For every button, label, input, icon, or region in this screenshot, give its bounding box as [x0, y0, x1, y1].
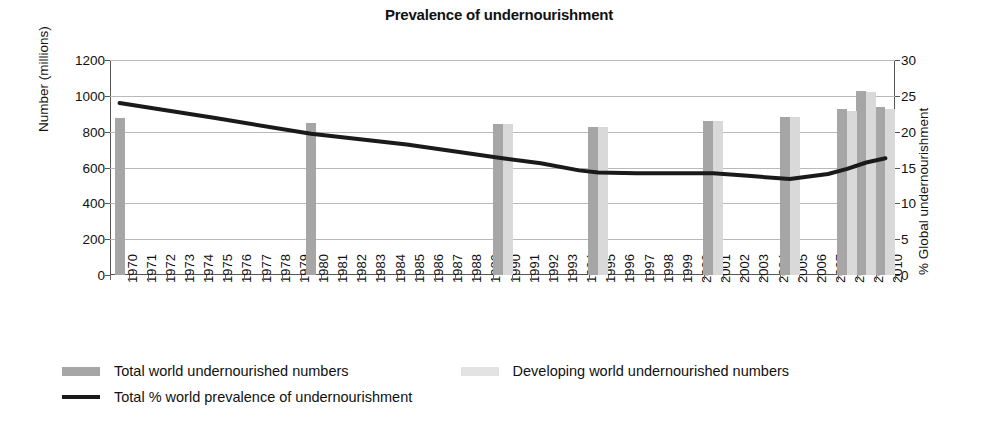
x-axis-tick-mark: [857, 275, 858, 280]
y-axis-right-tick-label: 30: [901, 53, 916, 68]
x-axis-tick-mark: [359, 275, 360, 280]
x-axis-tick-mark: [570, 275, 571, 280]
line-series-layer: [110, 60, 895, 275]
x-axis-tick-mark: [187, 275, 188, 280]
x-axis-tick-mark: [531, 275, 532, 280]
y-axis-left-tick-label: 600: [82, 160, 105, 175]
y-axis-left-title: Number (millions): [36, 0, 51, 132]
x-axis-tick-mark: [723, 275, 724, 280]
x-axis-tick-mark: [206, 275, 207, 280]
y-axis-right-tick-mark: [895, 60, 900, 61]
x-axis-tick-mark: [742, 275, 743, 280]
x-axis-tick-mark: [110, 275, 111, 280]
legend-swatch-total-icon: [62, 367, 100, 376]
y-axis-right-tick-mark: [895, 96, 900, 97]
y-axis-right-tick-label: 15: [901, 160, 916, 175]
x-axis-tick-mark: [167, 275, 168, 280]
y-axis-right-tick-mark: [895, 203, 900, 204]
legend-swatch-line-icon: [62, 395, 100, 399]
x-axis-tick-mark: [301, 275, 302, 280]
chart-title: Prevalence of undernourishment: [0, 6, 998, 23]
x-axis-tick-mark: [838, 275, 839, 280]
legend-label-total-world: Total world undernourished numbers: [114, 363, 349, 379]
x-axis-tick-mark: [244, 275, 245, 280]
line-series-path: [120, 103, 886, 179]
legend-item-developing-world[interactable]: Developing world undernourished numbers: [461, 363, 789, 379]
x-axis-tick-mark: [799, 275, 800, 280]
x-axis-tick-mark: [550, 275, 551, 280]
x-axis-tick-mark: [646, 275, 647, 280]
x-axis-tick-mark: [340, 275, 341, 280]
x-axis-tick-mark: [818, 275, 819, 280]
legend-item-total-world[interactable]: Total world undernourished numbers: [62, 363, 349, 379]
y-axis-right-tick-label: 5: [901, 232, 909, 247]
x-axis-tick-mark: [627, 275, 628, 280]
x-axis-tick-mark: [225, 275, 226, 280]
x-axis-tick-mark: [589, 275, 590, 280]
y-axis-right-tick-label: 20: [901, 124, 916, 139]
chart-legend: Total world undernourished numbers Devel…: [62, 358, 962, 410]
x-axis-tick-mark: [148, 275, 149, 280]
legend-label-developing-world: Developing world undernourished numbers: [513, 363, 789, 379]
y-axis-right-tick-mark: [895, 168, 900, 169]
x-axis-tick-mark: [780, 275, 781, 280]
x-axis-tick-mark: [321, 275, 322, 280]
x-axis-tick-mark: [129, 275, 130, 280]
y-axis-right-tick-mark: [895, 239, 900, 240]
y-axis-left-tick-label: 1200: [75, 53, 105, 68]
x-axis-tick-mark: [455, 275, 456, 280]
x-axis-tick-mark: [704, 275, 705, 280]
legend-label-percent-line: Total % world prevalence of undernourish…: [114, 389, 412, 405]
x-axis-tick-mark: [493, 275, 494, 280]
legend-row-bottom: Total % world prevalence of undernourish…: [62, 384, 962, 410]
x-axis-tick-mark: [474, 275, 475, 280]
legend-item-percent-line[interactable]: Total % world prevalence of undernourish…: [62, 389, 412, 405]
y-axis-right-tick-mark: [895, 132, 900, 133]
x-axis-tick-mark: [895, 275, 896, 280]
x-axis-tick-mark: [665, 275, 666, 280]
y-axis-right-title: % Global undernourishment: [916, 45, 931, 275]
x-axis-tick-mark: [282, 275, 283, 280]
y-axis-left-tick-label: 400: [82, 196, 105, 211]
x-axis-tick-mark: [416, 275, 417, 280]
y-axis-left-tick-label: 0: [97, 268, 105, 283]
y-axis-right-tick-label: 10: [901, 196, 916, 211]
x-axis-tick-mark: [684, 275, 685, 280]
x-axis-tick-mark: [435, 275, 436, 280]
chart-container: Prevalence of undernourishment 020040060…: [0, 0, 998, 434]
x-axis-tick-mark: [263, 275, 264, 280]
y-axis-left-tick-label: 1000: [75, 88, 105, 103]
x-axis-tick-mark: [378, 275, 379, 280]
x-axis-tick-mark: [876, 275, 877, 280]
y-axis-left-tick-label: 200: [82, 232, 105, 247]
legend-row-top: Total world undernourished numbers Devel…: [62, 358, 962, 384]
legend-swatch-developing-icon: [461, 367, 499, 376]
x-axis-tick-mark: [761, 275, 762, 280]
plot-area: 020040060080010001200 051015202530 19701…: [110, 60, 895, 275]
x-axis-tick-mark: [512, 275, 513, 280]
x-axis-tick-mark: [397, 275, 398, 280]
x-axis-tick-mark: [608, 275, 609, 280]
y-axis-right-tick-label: 25: [901, 88, 916, 103]
y-axis-left-tick-label: 800: [82, 124, 105, 139]
